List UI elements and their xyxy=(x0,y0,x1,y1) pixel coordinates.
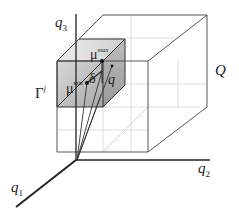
q2-label: q2 xyxy=(198,160,210,179)
delta-label: δ xyxy=(89,71,96,86)
q-point xyxy=(111,65,114,68)
configuration-space-diagram: q3 q2 q1 Q Γj μmax μmin δ q xyxy=(0,0,239,220)
gamma-label: Γj xyxy=(35,84,47,101)
q1-label: q1 xyxy=(11,179,23,198)
configuration-space-label: Q xyxy=(215,62,226,78)
q1-axis xyxy=(16,160,76,207)
q3-label: q3 xyxy=(55,14,68,33)
mu-max-point xyxy=(100,59,104,63)
q-label: q xyxy=(108,72,115,87)
